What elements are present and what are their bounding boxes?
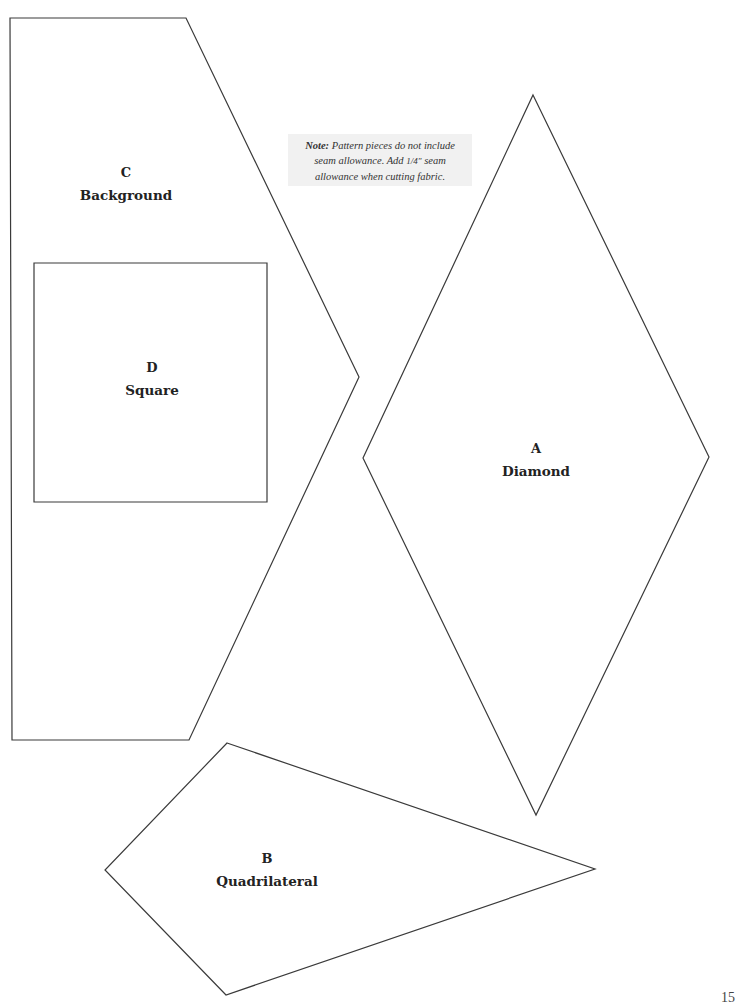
piece-name: Background: [80, 189, 172, 203]
note-line-3: allowance when cutting fabric.: [288, 169, 472, 184]
piece-c-label: C Background: [80, 166, 172, 203]
piece-letter: A: [502, 442, 570, 455]
piece-name: Square: [125, 384, 178, 398]
seam-allowance-note: Note: Pattern pieces do not include seam…: [288, 134, 472, 186]
piece-b-label: B Quadrilateral: [216, 852, 318, 889]
note-line-1: Note: Pattern pieces do not include: [288, 138, 472, 153]
piece-a-label: A Diamond: [502, 442, 570, 479]
pattern-page: Note: Pattern pieces do not include seam…: [0, 0, 743, 1008]
piece-name: Quadrilateral: [216, 875, 318, 889]
note-line-2: seam allowance. Add 1/4" seam: [288, 153, 472, 169]
piece-c-background-outline: [10, 18, 359, 740]
piece-d-label: D Square: [125, 361, 178, 398]
fraction: 1/4": [406, 156, 421, 166]
piece-letter: D: [125, 361, 178, 374]
page-number: 15: [721, 990, 735, 1006]
piece-name: Diamond: [502, 465, 570, 479]
piece-letter: B: [216, 852, 318, 865]
note-prefix: Note:: [305, 140, 329, 151]
piece-b-quadrilateral-outline: [105, 743, 595, 995]
piece-letter: C: [80, 166, 172, 179]
